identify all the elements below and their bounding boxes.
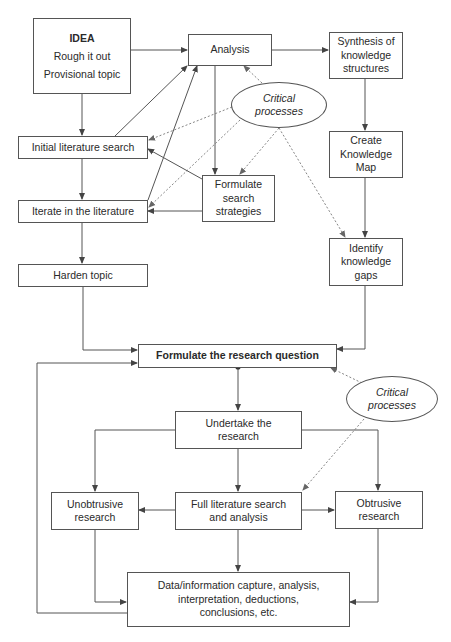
knowledge-gaps-box: Identify knowledge gaps [329, 238, 403, 286]
edge-data-question [37, 363, 137, 613]
data-capture-box: Data/information capture, analysis, inte… [127, 572, 350, 627]
harden-topic-box: Harden topic [18, 264, 148, 287]
synthesis-line1: Synthesis of [337, 35, 394, 49]
iterate-literature-box: Iterate in the literature [18, 200, 148, 223]
idea-line3: Provisional topic [44, 65, 120, 83]
search-strategies-box: Formulate search strategies [202, 175, 275, 222]
edge-undertake-obtrusive [301, 430, 378, 490]
edge-undertake-unobtrusive [95, 430, 175, 491]
analysis-label: Analysis [210, 43, 249, 57]
gaps-line1: Identify [349, 242, 383, 256]
synthesis-line3: structures [343, 62, 389, 76]
synthesis-line2: knowledge [341, 49, 391, 63]
gaps-line3: gaps [355, 269, 378, 283]
edge-iterate-analysis [148, 66, 197, 200]
data-capture-line2: interpretation, deductions, [178, 593, 299, 607]
research-question-label: Formulate the research question [156, 349, 319, 363]
full-search-line2: and analysis [209, 511, 267, 525]
critical-top-line2: processes [255, 105, 303, 119]
obtrusive-line2: research [359, 510, 400, 524]
idea-line2: Rough it out [54, 47, 111, 65]
initial-literature-search-box: Initial literature search [18, 136, 148, 159]
idea-box: IDEA Rough it out Provisional topic [33, 18, 131, 94]
iterate-label: Iterate in the literature [32, 205, 134, 219]
dotted-critical-initial [149, 107, 232, 140]
obtrusive-line1: Obtrusive [357, 497, 402, 511]
strategies-line3: strategies [216, 205, 262, 219]
critical-processes-ellipse-top: Critical processes [231, 82, 327, 128]
gaps-line2: knowledge [341, 255, 391, 269]
critical-bottom-line2: processes [368, 399, 416, 413]
dotted-critical2-question [331, 368, 362, 383]
data-capture-line1: Data/information capture, analysis, [158, 579, 320, 593]
edge-obtrusive-data [350, 528, 378, 602]
undertake-line2: research [218, 430, 259, 444]
undertake-line1: Undertake the [206, 417, 272, 431]
undertake-research-box: Undertake the research [175, 411, 302, 449]
edge-harden-question [83, 286, 137, 350]
initial-search-label: Initial literature search [32, 141, 135, 155]
knowledge-map-box: Create Knowledge Map [329, 131, 403, 178]
unobtrusive-line1: Unobtrusive [67, 498, 123, 512]
edge-gaps-question [337, 285, 365, 349]
full-search-line1: Full literature search [191, 498, 286, 512]
analysis-box: Analysis [188, 34, 272, 66]
research-question-box: Formulate the research question [138, 344, 337, 368]
knowledge-map-line3: Map [356, 161, 376, 175]
strategies-line2: search [223, 192, 255, 206]
dotted-critical-analysis [244, 66, 262, 83]
knowledge-map-line2: Knowledge [340, 148, 392, 162]
data-capture-line3: conclusions, etc. [200, 606, 278, 620]
edge-strategies-initial [148, 149, 202, 179]
dotted-critical-strategies [240, 128, 279, 174]
strategies-line1: Formulate [215, 178, 262, 192]
edge-unobtrusive-data [95, 529, 126, 602]
connector-layer [0, 0, 451, 642]
knowledge-map-line1: Create [350, 134, 382, 148]
critical-top-line1: Critical [263, 92, 295, 106]
unobtrusive-research-box: Unobtrusive research [51, 492, 139, 530]
critical-bottom-line1: Critical [376, 386, 408, 400]
obtrusive-research-box: Obtrusive research [335, 491, 423, 529]
full-literature-search-box: Full literature search and analysis [175, 492, 302, 530]
critical-processes-ellipse-bottom: Critical processes [346, 376, 438, 422]
unobtrusive-line2: research [75, 511, 116, 525]
synthesis-box: Synthesis of knowledge structures [329, 32, 403, 79]
harden-label: Harden topic [53, 269, 113, 283]
idea-title: IDEA [69, 29, 94, 47]
